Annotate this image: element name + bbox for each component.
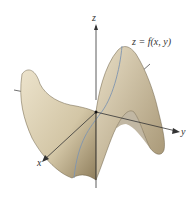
x-axis-label: x: [37, 157, 41, 168]
z-axis-arrow: [94, 24, 98, 30]
y-axis-arrow: [172, 128, 180, 134]
y-axis-label: y: [181, 126, 185, 137]
surface-left-lobe: [21, 70, 96, 180]
saddle-surface-diagram: [0, 0, 194, 201]
surface-label: z = f(x, y): [132, 36, 171, 47]
origin-point: [95, 111, 98, 114]
z-axis-label: z: [92, 12, 96, 23]
